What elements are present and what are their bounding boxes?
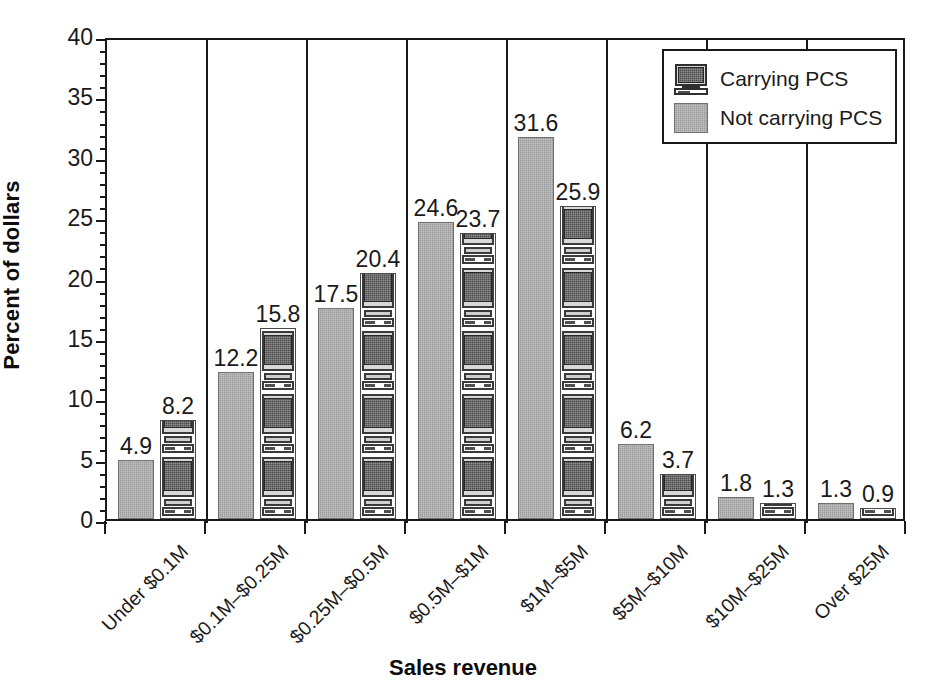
y-tick-major (96, 401, 107, 403)
y-tick-label: 35 (33, 86, 93, 109)
y-tick-minor (100, 389, 107, 391)
bar-value-label: 0.9 (846, 483, 910, 506)
y-tick-label: 10 (33, 388, 93, 411)
y-tick-minor (100, 208, 107, 210)
bar-value-label: 25.9 (546, 181, 610, 204)
pc-monitor-icon (361, 455, 395, 518)
x-tick (604, 521, 606, 534)
bar-value-label: 17.5 (304, 283, 368, 306)
pc-monitor-icon (261, 329, 295, 392)
y-tick-minor (100, 256, 107, 258)
y-tick-minor (100, 75, 107, 77)
pc-pattern-fill (261, 328, 295, 518)
y-tick-minor (100, 317, 107, 319)
y-axis-title: Percent of dollars (0, 15, 25, 535)
pc-monitor-icon (761, 503, 795, 518)
legend-entry-not-carrying-pcs: Not carrying PCS (674, 98, 895, 137)
x-tick (504, 521, 506, 534)
pc-pattern-fill (361, 273, 395, 518)
x-category-label-text: $0.1M–$0.25M (185, 540, 293, 648)
bar-value-label: 20.4 (346, 248, 410, 271)
x-tick (404, 521, 406, 534)
group-separator-line (206, 40, 208, 523)
y-tick-minor (100, 329, 107, 331)
pc-pattern-fill (561, 206, 595, 518)
pc-monitor-icon (561, 392, 595, 455)
y-tick-label: 5 (33, 449, 93, 472)
bar-not-carrying-pcs (118, 460, 154, 519)
y-tick-minor (100, 244, 107, 246)
pc-pattern-fill (461, 233, 495, 518)
y-tick-major (96, 341, 107, 343)
x-tick (804, 521, 806, 534)
pc-monitor-icon (261, 455, 295, 518)
y-tick-minor (100, 474, 107, 476)
pc-monitor-icon (461, 233, 495, 266)
pc-pattern-fill (161, 420, 195, 518)
y-tick-minor (100, 148, 107, 150)
bar-carrying-pcs (860, 508, 896, 519)
y-tick-minor (100, 293, 107, 295)
bar-value-label: 31.6 (504, 112, 568, 135)
bar-value-label: 8.2 (146, 395, 210, 418)
group-separator-line (306, 40, 308, 523)
pc-monitor-icon (861, 508, 895, 518)
group-separator-line (606, 40, 608, 523)
y-tick-minor (100, 124, 107, 126)
bar-carrying-pcs (460, 233, 496, 519)
pc-monitor-icon (461, 266, 495, 329)
x-category-label-text: $0.5M–$1M (404, 540, 493, 629)
gray-square-icon (674, 103, 708, 133)
x-category-label-text: $10M–$25M (700, 540, 793, 633)
y-tick-label: 40 (33, 26, 93, 49)
y-tick-minor (100, 111, 107, 113)
bar-value-label: 23.7 (446, 208, 510, 231)
x-category-label-text: Under $0.1M (97, 540, 193, 636)
pc-monitor-icon (561, 266, 595, 329)
pc-monitor-icon (674, 64, 708, 94)
y-tick-label: 0 (33, 509, 93, 532)
y-tick-minor (100, 184, 107, 186)
y-tick-minor (100, 413, 107, 415)
y-tick-minor (100, 305, 107, 307)
y-tick-label: 25 (33, 207, 93, 230)
y-tick-label: 20 (33, 268, 93, 291)
bar-carrying-pcs (160, 420, 196, 519)
y-tick-minor (100, 365, 107, 367)
group-separator-line (406, 40, 408, 523)
y-tick-minor (100, 268, 107, 270)
x-axis-title: Sales revenue (0, 655, 926, 681)
bar-carrying-pcs (360, 273, 396, 519)
pc-monitor-icon (261, 392, 295, 455)
legend: Carrying PCS Not carrying PCS (662, 49, 897, 144)
pc-monitor-icon (661, 474, 695, 518)
x-tick (904, 521, 906, 534)
y-tick-minor (100, 486, 107, 488)
legend-label-not-carrying-pcs: Not carrying PCS (720, 106, 882, 130)
bar-value-label: 12.2 (204, 347, 268, 370)
pc-monitor-icon (361, 392, 395, 455)
pc-monitor-icon (461, 455, 495, 518)
pc-monitor-icon (561, 455, 595, 518)
x-tick (704, 521, 706, 534)
y-tick-minor (100, 51, 107, 53)
bar-carrying-pcs (760, 503, 796, 519)
x-category-label-text: $5M–$10M (608, 540, 693, 625)
pc-pattern-fill (761, 503, 795, 518)
bar-carrying-pcs (260, 328, 296, 519)
pc-monitor-icon (161, 420, 195, 455)
bar-not-carrying-pcs (418, 222, 454, 519)
pc-monitor-icon (161, 455, 195, 518)
pc-monitor-icon (561, 206, 595, 266)
y-tick-minor (100, 353, 107, 355)
y-tick-minor (100, 136, 107, 138)
legend-entry-carrying-pcs: Carrying PCS (674, 59, 895, 98)
bar-value-label: 15.8 (246, 303, 310, 326)
bar-chart-figure: Percent of dollars 0510152025303540 4.98… (0, 0, 926, 698)
y-tick-label: 15 (33, 328, 93, 351)
y-tick-minor (100, 232, 107, 234)
y-tick-minor (100, 377, 107, 379)
y-tick-minor (100, 172, 107, 174)
plot-area: 4.98.212.215.817.520.424.623.731.625.96.… (105, 38, 905, 521)
y-tick-minor (100, 63, 107, 65)
